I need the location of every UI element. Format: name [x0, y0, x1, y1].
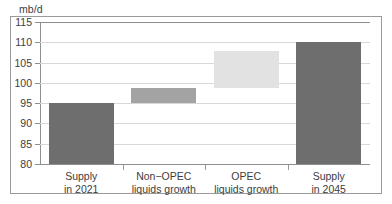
x-axis-category-3: Supply in 2045	[288, 170, 371, 195]
y-axis-label-115: 115	[15, 16, 32, 28]
y-tick-100	[35, 83, 40, 84]
y-tick-115	[35, 22, 40, 23]
bar-1	[131, 88, 196, 103]
bar-2	[214, 51, 279, 88]
bar-0	[49, 103, 114, 164]
gridline-115	[40, 22, 370, 23]
y-axis-label-90: 90	[20, 117, 32, 129]
x-axis-category-2: OPEC liquids growth	[205, 170, 288, 195]
y-tick-105	[35, 63, 40, 64]
y-axis-label-100: 100	[14, 77, 32, 89]
x-axis-category-1: Non−OPEC liquids growth	[123, 170, 206, 195]
y-tick-95	[35, 103, 40, 104]
plot-area	[40, 22, 370, 164]
y-axis-label-85: 85	[20, 138, 32, 150]
y-tick-90	[35, 123, 40, 124]
y-axis-label-80: 80	[20, 158, 32, 170]
y-axis-label-105: 105	[14, 57, 32, 69]
waterfall-chart: mb/d 80859095100105110115 Supply in 2021…	[0, 0, 392, 204]
y-axis-label-110: 110	[15, 36, 32, 48]
bar-3	[296, 42, 361, 164]
y-tick-85	[35, 144, 40, 145]
y-axis-labels: 80859095100105110115	[0, 0, 32, 204]
x-axis-category-0: Supply in 2021	[40, 170, 123, 195]
y-tick-80	[35, 164, 40, 165]
y-axis-label-95: 95	[20, 97, 32, 109]
y-tick-110	[35, 42, 40, 43]
